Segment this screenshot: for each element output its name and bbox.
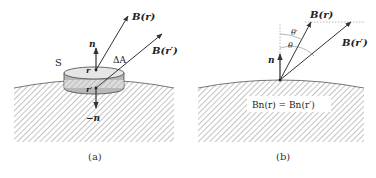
field-b-rprime-label-b: B(r′) xyxy=(341,37,368,48)
area-label: ΔA xyxy=(113,55,126,65)
caption-b: (b) xyxy=(276,151,290,162)
theta-label: θ xyxy=(288,41,293,50)
equation-label: Bn(r) = Bn(r′) xyxy=(252,100,315,110)
caption-a: (a) xyxy=(88,151,102,162)
surface-label: S xyxy=(55,57,62,68)
field-b-r-label-b: B(r) xyxy=(309,9,333,20)
normal-label-b: n xyxy=(268,55,275,65)
normal-down-label: −n xyxy=(86,113,100,123)
field-b-rprime-arrow xyxy=(96,34,162,88)
theta-prime-label: θ′ xyxy=(291,28,298,37)
panel-b: n B(r) B(r′) θ′ θ Bn(r) = Bn(r′) (b) xyxy=(198,9,368,162)
diagram-canvas: S ΔA n −n r r′ B(r) B(r′) (a) n B(r) B(r… xyxy=(0,0,376,178)
point-bottom-label: r′ xyxy=(86,84,93,94)
pillbox xyxy=(64,67,124,94)
field-b-rprime-label: B(r′) xyxy=(151,45,178,56)
panel-a: S ΔA n −n r r′ B(r) B(r′) (a) xyxy=(14,11,178,162)
normal-up-label: n xyxy=(89,39,96,49)
field-b-r-label: B(r) xyxy=(131,11,155,22)
